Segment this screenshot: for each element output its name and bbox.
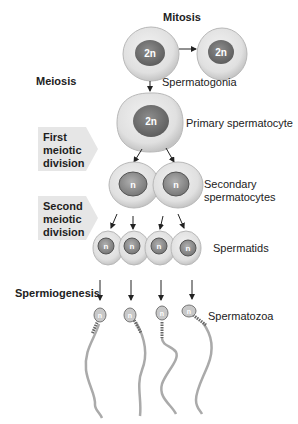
svg-text:n: n	[130, 242, 135, 251]
secondary-spermatocyte-cells: n n	[109, 162, 203, 208]
secondary-spermatocytes-label-line2: spermatocytes	[204, 191, 276, 204]
spermatogonia-label: Spermatogonia	[162, 76, 237, 89]
second-division-arrow-1	[111, 214, 117, 228]
stage-line: meiotic	[43, 144, 94, 157]
stage-line: Second	[43, 200, 94, 213]
spermatogonium-cell-1: 2n	[123, 27, 179, 81]
first-meiotic-division-box: First meiotic division	[38, 127, 98, 171]
spermatozoon-2: n	[124, 308, 145, 416]
secondary-spermatocytes-label-line1: Secondary	[204, 178, 257, 191]
svg-text:n: n	[186, 244, 191, 253]
svg-text:2n: 2n	[215, 47, 227, 58]
svg-text:2n: 2n	[145, 116, 157, 127]
spermatozoon-3: n	[156, 306, 177, 414]
mitosis-label: Mitosis	[163, 11, 201, 24]
second-meiotic-division-box: Second meiotic division	[38, 196, 98, 240]
stage-line: meiotic	[43, 213, 94, 226]
spermatozoa-label: Spermatozoa	[208, 310, 273, 323]
svg-text:n: n	[130, 180, 136, 190]
second-division-arrow-3	[160, 216, 163, 229]
primary-spermatocyte-label: Primary spermatocyte	[186, 117, 293, 130]
second-division-arrow-4	[178, 214, 184, 228]
stage-line: division	[43, 226, 94, 239]
svg-text:n: n	[98, 312, 102, 319]
meiosis-label: Meiosis	[36, 75, 76, 88]
spermatozoon-1: n	[86, 308, 106, 418]
svg-text:n: n	[160, 310, 164, 317]
spermatogonium-cell-2: 2n	[197, 28, 247, 80]
stage-line: division	[43, 157, 94, 170]
first-division-arrow-right	[166, 148, 174, 162]
svg-text:n: n	[128, 312, 132, 319]
stage-line: First	[43, 131, 94, 144]
spermatids-label: Spermatids	[213, 242, 269, 255]
svg-text:n: n	[104, 242, 109, 251]
spermiogenesis-label: Spermiogenesis	[15, 287, 100, 300]
spermatozoon-4: n	[182, 305, 211, 414]
svg-text:2n: 2n	[144, 48, 156, 59]
spermatid-cells: n n n n	[93, 231, 201, 265]
svg-text:n: n	[157, 242, 162, 251]
primary-spermatocyte-cell: 2n	[117, 93, 183, 152]
svg-text:n: n	[187, 308, 191, 315]
svg-text:n: n	[173, 180, 179, 190]
